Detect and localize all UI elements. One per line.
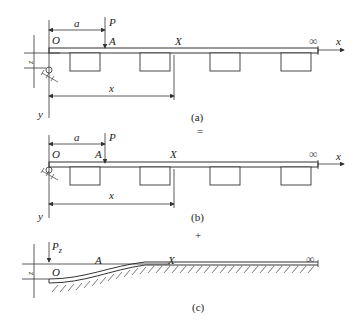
beam-on-ties-diagram: a P O A X ∞ x z x y (a) =: [0, 0, 361, 336]
hatch: [156, 266, 162, 273]
hatch: [68, 284, 74, 291]
hatch: [140, 267, 146, 274]
label-a-point: A: [108, 35, 116, 47]
label-pz-sub: z: [58, 246, 63, 255]
hatch: [300, 266, 306, 273]
hatch: [148, 266, 154, 273]
beam: [49, 48, 318, 53]
label-p: P: [108, 131, 116, 143]
hatch: [188, 266, 194, 273]
label-y: y: [37, 210, 43, 222]
equals-sign: =: [197, 125, 203, 137]
label-a: a: [74, 131, 80, 143]
hatch: [76, 283, 82, 290]
panel-c: Pz O A X ∞ z: [22, 240, 318, 314]
hatch: [132, 268, 138, 275]
hatch: [108, 274, 114, 281]
hatch: [52, 285, 58, 292]
label-p: P: [108, 16, 116, 28]
hatch: [268, 266, 274, 273]
label-infinity: ∞: [306, 252, 315, 266]
label-pz: Pz: [51, 240, 63, 255]
hatch: [276, 266, 282, 273]
hatch: [252, 266, 258, 273]
hatch: [220, 266, 226, 273]
label-o: O: [52, 34, 60, 46]
tie-3: [210, 167, 240, 185]
plus-sign: +: [195, 229, 201, 241]
hatch: [212, 266, 218, 273]
hatch: [228, 266, 234, 273]
hatch: [60, 285, 66, 292]
hatch: [204, 266, 210, 273]
label-x-point: X: [174, 35, 183, 47]
caption-b: (b): [191, 211, 204, 224]
hatch: [164, 266, 170, 273]
hatch: [236, 266, 242, 273]
caption-a: (a): [191, 111, 204, 124]
label-x-dim: x: [108, 189, 114, 201]
tie-1: [70, 53, 100, 71]
hatch: [292, 266, 298, 273]
label-x-point: X: [169, 148, 178, 160]
hatch: [260, 266, 266, 273]
hatch: [100, 277, 106, 284]
support-ground: [42, 73, 58, 82]
tie-4: [281, 167, 311, 185]
tie-1: [70, 167, 100, 185]
label-a: a: [74, 17, 80, 29]
hatch: [308, 266, 314, 273]
hatch: [196, 266, 202, 273]
label-o: O: [52, 266, 60, 278]
hatch: [116, 272, 122, 279]
label-infinity: ∞: [309, 34, 318, 48]
hatch: [172, 266, 178, 273]
hatch: [84, 281, 90, 288]
tie-3: [210, 53, 240, 71]
panel-a: a P O A X ∞ x z x y (a): [24, 16, 344, 124]
label-x-dim: x: [108, 82, 114, 94]
tie-2: [140, 53, 170, 71]
support-ground: [42, 171, 58, 180]
hatch: [180, 266, 186, 273]
tie-4: [281, 53, 311, 71]
hatch: [284, 266, 290, 273]
hatch: [244, 266, 250, 273]
tie-2: [140, 167, 170, 185]
hatch: [92, 279, 98, 286]
panel-b: a P O A X ∞ x x y (b): [37, 131, 344, 224]
label-y: y: [37, 108, 43, 120]
label-a-point: A: [94, 148, 102, 160]
label-o: O: [52, 148, 60, 160]
elastic-foundation-hatching: [52, 266, 314, 292]
label-x-axis: x: [335, 150, 341, 162]
label-x-axis: x: [335, 35, 341, 47]
beam: [49, 162, 318, 167]
caption-c: (c): [192, 301, 205, 314]
label-infinity: ∞: [309, 147, 318, 161]
hatch: [124, 270, 130, 277]
